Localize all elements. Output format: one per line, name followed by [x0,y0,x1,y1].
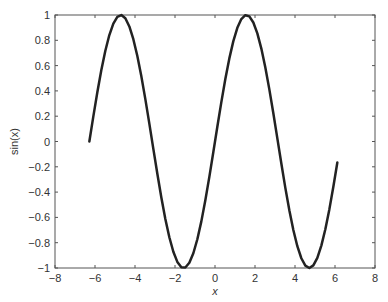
y-tick-label: 1 [44,9,50,21]
y-tick-label: 0 [44,136,50,148]
y-tick-label: 0.6 [35,60,50,72]
x-tick-label: −4 [129,272,142,284]
data-series [89,15,337,268]
x-tick-label: −2 [169,272,182,284]
y-axis-label: sin(x) [8,128,20,155]
x-tick-label: 0 [212,272,218,284]
x-tick-label: −8 [49,272,62,284]
x-tick-label: 8 [372,272,378,284]
y-tick-label: −1 [37,262,50,274]
y-tick-label: 0.2 [35,110,50,122]
x-tick-label: 2 [252,272,258,284]
y-tick-label: −0.2 [28,161,50,173]
x-axis-label: x [211,285,218,297]
x-tick-label: −6 [89,272,102,284]
x-tick-label: 6 [332,272,338,284]
y-tick-label: 0.8 [35,34,50,46]
x-tick-label: 4 [292,272,298,284]
sine-chart: −8−6−4−202468 −1−0.8−0.6−0.4−0.200.20.40… [0,0,388,302]
y-tick-label: 0.4 [35,85,50,97]
sine-curve [89,15,337,268]
y-tick-label: −0.8 [28,237,50,249]
y-tick-label: −0.6 [28,211,50,223]
y-tick-label: −0.4 [28,186,50,198]
